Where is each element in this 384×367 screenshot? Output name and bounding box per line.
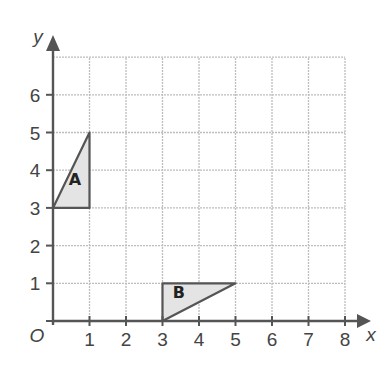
x-tick-label: 6 <box>267 329 278 350</box>
x-tick-label: 5 <box>230 329 241 350</box>
x-tick-label: 1 <box>84 329 95 350</box>
triangle-label-a: A <box>69 170 82 189</box>
y-tick-label: 4 <box>30 160 41 181</box>
x-tick-label: 4 <box>194 329 205 350</box>
shapes <box>53 133 236 322</box>
y-tick-label: 2 <box>30 236 41 257</box>
x-axis-label: x <box>365 324 377 345</box>
triangle-label-b: B <box>173 283 185 302</box>
y-tick-label: 5 <box>30 123 41 144</box>
y-tick-label: 3 <box>30 198 41 219</box>
coordinate-plane: AB12345678123456Oxy <box>0 0 384 367</box>
y-tick-label: 6 <box>30 85 41 106</box>
x-tick-label: 3 <box>157 329 168 350</box>
x-tick-label: 7 <box>303 329 314 350</box>
y-axis-label: y <box>31 26 44 47</box>
y-axis-arrow-icon <box>46 35 60 51</box>
grid-lines <box>53 57 345 321</box>
origin-label: O <box>30 325 45 346</box>
y-tick-label: 1 <box>30 273 41 294</box>
x-tick-label: 8 <box>340 329 351 350</box>
x-tick-label: 2 <box>121 329 132 350</box>
